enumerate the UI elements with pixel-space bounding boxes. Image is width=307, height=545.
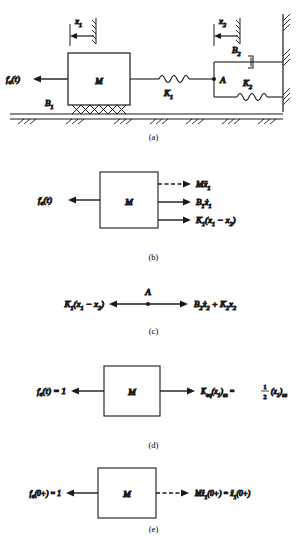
- fbd-b-arrow-applied-force: [68, 197, 100, 204]
- label-B2: B2: [232, 45, 241, 57]
- panel-b: M fa(t) Mẍ1 B1ẋ1: [0, 160, 307, 280]
- caption-e: (e): [0, 524, 307, 534]
- caption-a: (a): [0, 132, 307, 142]
- damper-B2-symbol: [246, 56, 256, 68]
- panel-e-drawing: M fa(0+) = 1 Mẍ1(0+) = ẍ1(0+): [0, 462, 307, 532]
- fbd-d-label-M: M: [127, 387, 136, 397]
- fbd-e-label-fa: fa(0+) = 1: [30, 489, 61, 499]
- label-node-A: A: [219, 75, 226, 85]
- panel-c: A K1(x1 − x2) B2ẋ2 + K2x2 (c): [0, 278, 307, 358]
- label-x1: x1: [74, 16, 82, 28]
- fbd-e-arrow-inertia: [156, 490, 189, 497]
- fbd-e-label-M: M: [122, 489, 131, 499]
- label-mass-M: M: [94, 76, 103, 86]
- fbd-b-arrow-damping: [158, 199, 191, 206]
- fbd-c-label-A: A: [144, 287, 151, 297]
- fbd-d-arrow-applied-force: [71, 388, 104, 395]
- fbd-d-fraction-one-half: 1 2: [261, 384, 269, 400]
- panel-b-drawing: M fa(t) Mẍ1 B1ẋ1: [0, 160, 307, 260]
- caption-c: (c): [0, 326, 307, 336]
- svg-text:1: 1: [264, 384, 267, 390]
- right-wall-hatching: [283, 14, 290, 105]
- caption-d: (d): [0, 440, 307, 450]
- ground-line: [10, 114, 283, 119]
- x1-dimension-arrow: [70, 33, 94, 39]
- fbd-b-label-spring: K1(x1 − x2): [195, 215, 236, 227]
- fbd-c-label-left-expr: K1(x1 − x2): [63, 299, 104, 311]
- spring-K2-symbol: [237, 94, 267, 101]
- fbd-b-label-fa: fa(t): [38, 195, 52, 206]
- fbd-b-label-inertia: Mẍ1: [195, 179, 211, 191]
- fbd-d-label-keq-tail: (x1)ss: [271, 387, 288, 398]
- label-K1: K1: [163, 88, 173, 100]
- fbd-b-label-M: M: [124, 197, 133, 207]
- panel-c-drawing: A K1(x1 − x2) B2ẋ2 + K2x2: [0, 278, 307, 333]
- fbd-c-label-right-expr: B2ẋ2 + K2x2: [194, 299, 236, 311]
- label-B1: B1: [45, 98, 54, 110]
- ground-hatching: [18, 119, 276, 124]
- x1-reference-wall: [92, 18, 96, 44]
- panel-d: M fa(t) = 1 Keq(x1)ss = 1 2 (x1)ss (d): [0, 358, 307, 468]
- caption-b: (b): [0, 252, 307, 262]
- label-K2: K2: [242, 78, 252, 90]
- panel-d-drawing: M fa(t) = 1 Keq(x1)ss = 1 2 (x1)ss: [0, 358, 307, 448]
- fbd-b-arrow-inertia: [158, 181, 191, 188]
- x2-reference-wall: [236, 18, 240, 44]
- label-x2: x2: [218, 16, 226, 28]
- panel-a: x1 x2 M: [0, 0, 307, 150]
- fbd-b-label-damping: B1ẋ1: [196, 197, 212, 209]
- fbd-d-arrow-spring-force: [160, 388, 195, 395]
- fbd-c-arrow-left: [109, 301, 148, 308]
- fbd-c-arrow-right: [148, 301, 188, 308]
- fbd-b-arrow-spring: [158, 217, 191, 224]
- panel-a-drawing: x1 x2 M: [0, 0, 307, 130]
- fbd-d-label-fa: fa(t) = 1: [37, 386, 66, 397]
- spring-K1-symbol: [130, 76, 214, 83]
- damper-B1-symbol: [72, 105, 126, 114]
- label-fa-t: fa(t): [6, 74, 20, 85]
- x2-dimension-arrow: [214, 33, 238, 39]
- fbd-e-arrow-applied-force: [66, 490, 98, 497]
- applied-force-arrow-fa: [33, 76, 68, 83]
- panel-e: M fa(0+) = 1 Mẍ1(0+) = ẍ1(0+) (e): [0, 462, 307, 545]
- fbd-e-label-inertia-expr: Mẍ1(0+) = ẍ1(0+): [194, 489, 251, 500]
- fbd-d-label-keq-expr: Keq(x1)ss =: [200, 387, 235, 398]
- svg-text:2: 2: [264, 394, 267, 400]
